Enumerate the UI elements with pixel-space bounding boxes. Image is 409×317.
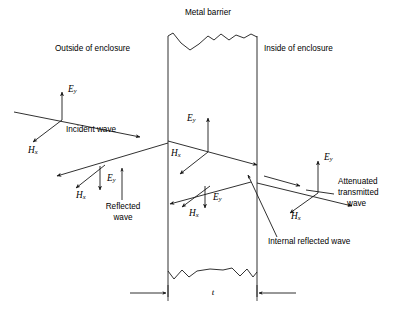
reflected-H-vector <box>76 165 105 188</box>
incident-E-label: Ey <box>68 84 77 96</box>
reflected-wave-label-line2: wave <box>98 213 148 223</box>
internal-ray <box>168 141 257 165</box>
internal-reflected-E-label: Ey <box>213 192 222 204</box>
metal-barrier-label: Metal barrier <box>185 8 231 18</box>
internal-E-label: Ey <box>187 113 196 125</box>
reflected-wave-label-line1: Reflected <box>98 202 148 212</box>
incident-wave-label: Incident wave <box>66 125 116 135</box>
transmitted-label-leader <box>306 190 334 194</box>
transmitted-H-vector <box>290 193 318 213</box>
incident-H-label: Hx <box>28 145 38 157</box>
inside-enclosure-label: Inside of enclosure <box>264 44 333 54</box>
internal-reflected-H-vector <box>182 186 210 207</box>
outside-enclosure-label: Outside of enclosure <box>55 44 130 54</box>
transmitted-ray-arrow <box>264 176 300 186</box>
reflected-H-label: Hx <box>76 190 86 202</box>
internal-H-vector <box>180 152 208 174</box>
internal-reflected-ray <box>170 182 251 204</box>
barrier-torn-top-edge <box>168 33 257 50</box>
reflected-E-label: Ey <box>107 173 116 185</box>
barrier-torn-bottom-edge <box>168 268 257 279</box>
attenuated-wave-label-line3: wave <box>347 199 366 209</box>
internal-reflected-wave-label: Internal reflected wave <box>268 237 350 247</box>
transmitted-H-label: Hx <box>291 211 301 223</box>
transmitted-E-label: Ey <box>324 152 333 164</box>
incident-H-vector <box>33 120 62 142</box>
attenuated-wave-label-line2: transmitted <box>338 188 379 198</box>
reflected-ray <box>57 143 168 176</box>
attenuated-wave-label-line1: Attenuated <box>338 177 378 187</box>
internal-H-label: Hx <box>171 148 181 160</box>
thickness-label: t <box>198 287 228 297</box>
internal-reflected-H-label: Hx <box>189 208 199 220</box>
